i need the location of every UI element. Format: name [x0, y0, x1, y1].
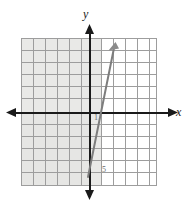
y-axis-arrow-bottom — [85, 190, 94, 200]
coordinate-plane-svg — [0, 0, 193, 204]
tick-label-five: 5 — [102, 166, 106, 174]
tick-label-one: 1 — [94, 114, 98, 122]
y-axis-label: y — [83, 8, 88, 20]
y-axis-arrow-top — [85, 24, 94, 34]
graph-figure: y x 1 5 — [0, 0, 193, 204]
x-axis-arrow-left — [6, 108, 16, 117]
x-axis-label: x — [176, 106, 181, 118]
